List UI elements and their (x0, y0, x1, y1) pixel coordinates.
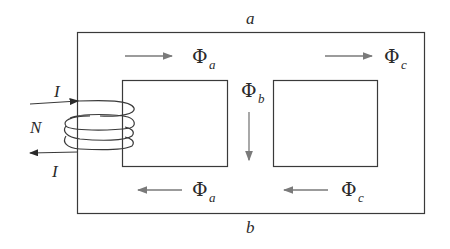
flux-label-c-bottom: Φ c (341, 178, 364, 205)
svg-text:a: a (209, 57, 216, 72)
flux-label-c-top: Φ c (384, 45, 407, 72)
svg-text:Φ: Φ (192, 45, 208, 67)
core-right-window (274, 81, 378, 167)
current-in-label: I (53, 82, 61, 101)
node-label-a: a (246, 9, 255, 28)
flux-label-a-top: Φ a (192, 45, 216, 72)
flux-label-b: Φ b (241, 79, 265, 106)
node-label-b: b (246, 218, 255, 237)
core-outer-boundary (78, 33, 425, 214)
coil (30, 101, 134, 153)
svg-text:c: c (358, 190, 364, 205)
svg-text:a: a (209, 190, 216, 205)
current-out-label: I (51, 162, 59, 181)
svg-text:Φ: Φ (341, 178, 357, 200)
flux-label-a-bottom: Φ a (192, 178, 216, 205)
core-left-window (123, 81, 228, 167)
magnetic-circuit-diagram: a b I N I Φ a Φ c Φ b Φ a Φ c (0, 0, 450, 249)
svg-text:Φ: Φ (192, 178, 208, 200)
svg-text:Φ: Φ (241, 79, 257, 101)
svg-text:Φ: Φ (384, 45, 400, 67)
turns-label: N (29, 118, 43, 137)
svg-text:c: c (401, 57, 407, 72)
svg-text:b: b (258, 91, 265, 106)
